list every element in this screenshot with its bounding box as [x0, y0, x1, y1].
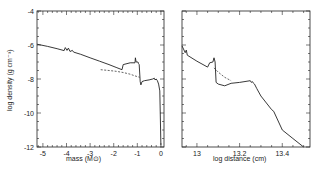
x-tick-label: -5	[40, 150, 46, 157]
series-dashed-line	[214, 68, 231, 81]
right-x-axis-label: log distance (cm)	[213, 155, 266, 163]
left-panel-mass-plot: -5-4-3-2-10-4-6-8-10-12	[24, 8, 164, 158]
density-profile-figure: -5-4-3-2-10-4-6-8-10-12 1313.213.4 mass …	[0, 0, 323, 178]
y-tick-label: -10	[24, 110, 34, 117]
plot-frame	[182, 11, 310, 147]
y-tick-label: -12	[24, 144, 34, 151]
left-x-axis-label: mass (M⊙)	[66, 155, 101, 163]
x-tick-label: 13	[193, 150, 201, 157]
x-tick-label: 0	[159, 150, 163, 157]
chart-canvas: -5-4-3-2-10-4-6-8-10-12 1313.213.4 mass …	[0, 0, 323, 178]
series-dashed-line	[101, 70, 140, 78]
y-tick-label: -4	[28, 8, 34, 15]
plot-frame	[37, 11, 164, 147]
series-solid-line	[37, 44, 161, 145]
x-tick-label: 13.4	[275, 150, 289, 157]
left-y-axis-label: log density (g cm⁻³)	[6, 49, 14, 111]
y-tick-label: -8	[28, 76, 34, 83]
x-tick-label: -1	[134, 150, 140, 157]
y-tick-label: -6	[28, 42, 34, 49]
right-panel-distance-plot: 1313.213.4	[182, 11, 310, 157]
series-solid-line	[182, 46, 304, 147]
x-tick-label: -2	[111, 150, 117, 157]
